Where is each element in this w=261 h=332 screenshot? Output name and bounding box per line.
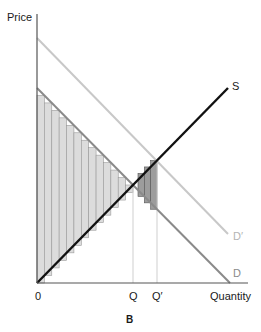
- surplus-bar: [37, 95, 44, 283]
- panel-label: B: [126, 314, 133, 325]
- surplus-bar: [67, 125, 74, 253]
- surplus-bar: [74, 133, 81, 246]
- demand-prime-label: D′: [233, 230, 243, 242]
- surplus-bar: [96, 155, 103, 223]
- q-prime-tick-label: Q′: [152, 290, 163, 302]
- added-surplus-bar: [151, 160, 157, 209]
- demand-label: D: [233, 267, 241, 279]
- added-surplus-bars: [138, 160, 157, 209]
- q-tick-label: Q: [129, 290, 138, 302]
- origin-label: 0: [35, 290, 41, 302]
- surplus-bar: [81, 140, 88, 238]
- surplus-bar: [59, 118, 66, 261]
- surplus-bar: [44, 103, 51, 276]
- y-axis-label: Price: [7, 11, 32, 23]
- surplus-bar: [52, 110, 59, 268]
- surplus-bar: [89, 148, 96, 231]
- consumer-surplus-bars: [37, 95, 133, 283]
- x-axis-label: Quantity: [210, 290, 251, 302]
- supply-demand-diagram: [0, 0, 261, 332]
- supply-label: S: [232, 80, 239, 92]
